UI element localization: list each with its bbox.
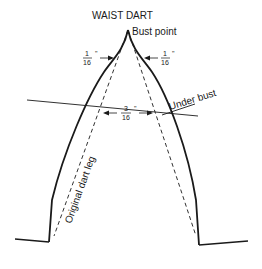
right-base-line [199, 241, 248, 245]
svg-text:16: 16 [122, 114, 130, 121]
under-bust-label: Under bust [167, 87, 217, 112]
svg-text:16: 16 [83, 59, 91, 66]
right-top-measurement: 1 16 " [144, 50, 175, 66]
waist-dart-diagram: WAIST DART Bust point Under bust Origina… [0, 0, 262, 269]
diagram-title: WAIST DART [92, 10, 153, 21]
svg-text:3: 3 [124, 105, 128, 112]
svg-text:": " [172, 50, 175, 57]
left-original-dart-leg [54, 30, 128, 236]
arrow-left-icon [144, 56, 150, 61]
bust-point-label: Bust point [132, 26, 177, 37]
svg-text:1: 1 [85, 50, 89, 57]
svg-text:": " [134, 105, 137, 112]
svg-text:": " [95, 50, 98, 57]
svg-text:1: 1 [163, 50, 167, 57]
left-base-line [15, 239, 49, 242]
svg-text:16: 16 [161, 59, 169, 66]
